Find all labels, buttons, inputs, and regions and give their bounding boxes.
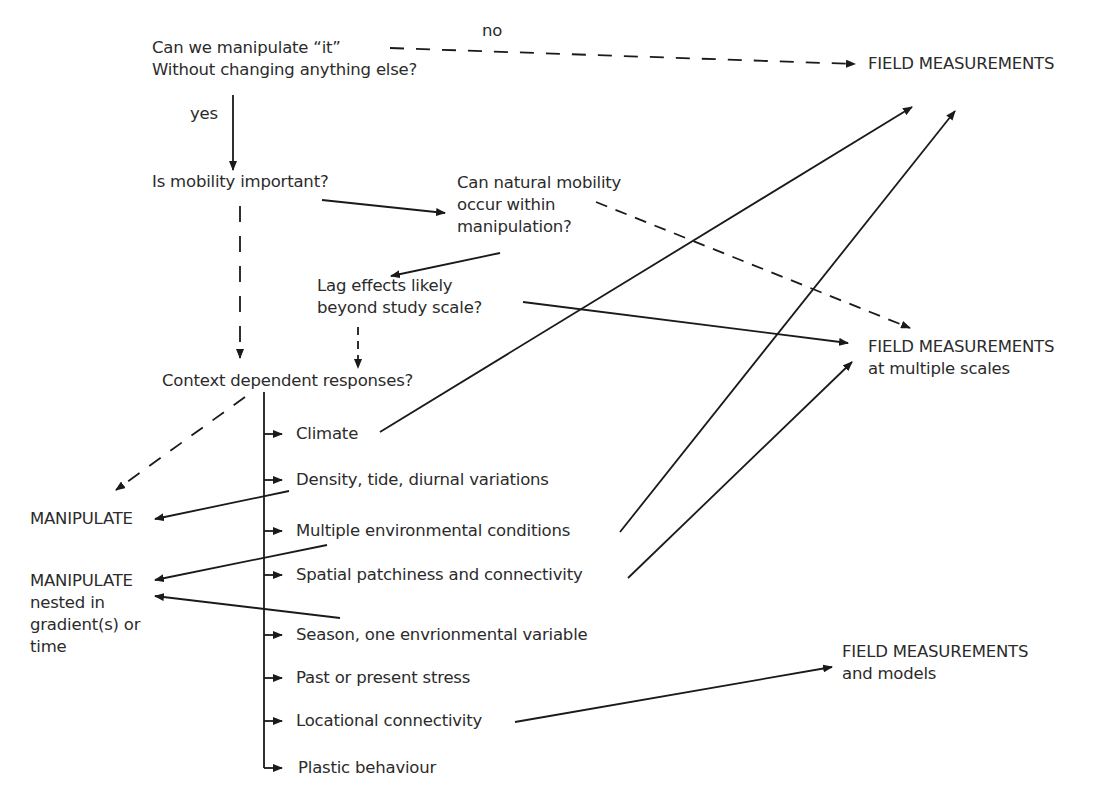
node-can-we-manipulate: Can we manipulate “it” Without changing … [152,37,417,81]
edge-locational-fieldmodels-arrow [515,667,832,722]
node-manipulate: MANIPULATE [30,508,133,530]
factor-spatial: Spatial patchiness and connectivity [296,564,583,586]
edge-natural-lag-arrow [391,253,500,276]
node-is-mobility-important: Is mobility important? [152,171,328,193]
factor-plastic: Plastic behaviour [298,757,436,779]
factor-stress: Past or present stress [296,667,470,689]
edge-multienv-field-arrow [620,111,955,532]
edge-spatial-fieldscales-arrow [628,362,852,578]
edge-context-manipulate-arrow [116,397,245,490]
edge-density-manipulate-arrow [155,491,289,519]
edge-label-yes: yes [190,103,218,125]
node-can-natural-mobility: Can natural mobility occur within manipu… [457,172,621,238]
node-field-measurements: FIELD MEASUREMENTS [868,53,1054,75]
node-field-models: FIELD MEASUREMENTS and models [842,641,1028,685]
factor-season: Season, one envrionmental variable [296,624,587,646]
factor-locational: Locational connectivity [296,710,482,732]
edge-climate-field-arrow [380,107,912,432]
edge-mobility-natural-arrow [322,200,445,213]
factor-density: Density, tide, diurnal variations [296,469,549,491]
decision-flowchart: Can we manipulate “it” Without changing … [0,0,1101,800]
node-context-dependent: Context dependent responses? [162,370,413,392]
node-field-multiple-scales: FIELD MEASUREMENTS at multiple scales [868,336,1054,380]
edge-season-nested-arrow [155,596,340,618]
edge-no-arrow [390,48,855,64]
node-manipulate-nested: MANIPULATE nested in gradient(s) or time [30,570,140,658]
edge-natural-fieldscales-arrow [596,202,910,328]
edge-label-no: no [482,20,502,42]
factor-climate: Climate [296,423,358,445]
factor-multiple-env: Multiple environmental conditions [296,520,570,542]
node-lag-effects: Lag effects likely beyond study scale? [317,275,482,319]
